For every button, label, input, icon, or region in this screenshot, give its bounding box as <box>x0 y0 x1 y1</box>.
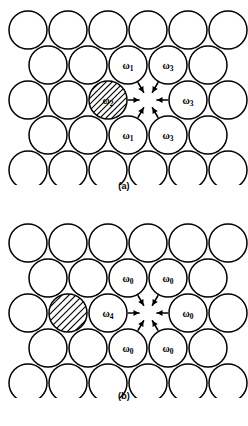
lattice-atom <box>209 151 247 185</box>
lattice-atom <box>89 11 127 49</box>
panel-a-lattice: ω1ω3ω2ω3ω1ω3 <box>0 0 248 185</box>
lattice-atom <box>189 116 227 154</box>
lattice-atom <box>49 224 87 262</box>
panel-b-atoms <box>9 224 247 398</box>
lattice-atom <box>89 151 127 185</box>
lattice-atom <box>169 11 207 49</box>
lattice-atom <box>209 294 247 332</box>
lattice-atom <box>69 46 107 84</box>
lattice-atom <box>209 224 247 262</box>
lattice-atom <box>29 259 67 297</box>
lattice-atom <box>189 259 227 297</box>
lattice-atom <box>69 116 107 154</box>
panel-a-arrows <box>129 83 168 117</box>
lattice-atom <box>9 11 47 49</box>
lattice-atom <box>29 46 67 84</box>
lattice-atom <box>9 224 47 262</box>
panel-b-arrows <box>129 296 168 330</box>
lattice-atom <box>69 329 107 367</box>
lattice-atom <box>169 224 207 262</box>
lattice-atom <box>9 81 47 119</box>
lattice-atom <box>29 116 67 154</box>
lattice-atom <box>29 329 67 367</box>
lattice-atom <box>209 11 247 49</box>
diffusion-figure: ω1ω3ω2ω3ω1ω3 (a) ω0ω0ω4ω0ω0ω0 (b) <box>0 0 248 426</box>
lattice-atom <box>9 294 47 332</box>
lattice-atom <box>49 11 87 49</box>
panel-b-svg: ω0ω0ω4ω0ω0ω0 <box>0 213 248 398</box>
lattice-atom <box>209 81 247 119</box>
lattice-atom <box>69 259 107 297</box>
lattice-atom <box>49 81 87 119</box>
lattice-atom <box>129 224 167 262</box>
lattice-atom <box>129 151 167 185</box>
lattice-atom <box>49 151 87 185</box>
lattice-atom <box>189 329 227 367</box>
lattice-atom <box>189 46 227 84</box>
panel-a-svg: ω1ω3ω2ω3ω1ω3 <box>0 0 248 185</box>
panel-a-atoms <box>9 11 247 185</box>
lattice-atom <box>9 151 47 185</box>
lattice-atom <box>89 224 127 262</box>
panel-a-caption: (a) <box>0 181 248 191</box>
panel-b-lattice: ω0ω0ω4ω0ω0ω0 <box>0 213 248 398</box>
panel-a: ω1ω3ω2ω3ω1ω3 (a) <box>0 0 248 213</box>
lattice-atom <box>49 294 87 332</box>
panel-b: ω0ω0ω4ω0ω0ω0 (b) <box>0 213 248 426</box>
panel-b-caption: (b) <box>0 391 248 401</box>
lattice-atom <box>169 151 207 185</box>
lattice-atom <box>129 11 167 49</box>
